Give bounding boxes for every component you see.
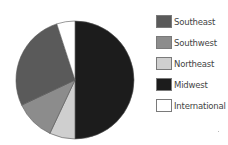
legend-label: Southwest — [174, 38, 217, 48]
legend-label: International — [174, 101, 226, 111]
legend-swatch-southwest — [156, 36, 172, 49]
legend-swatch-midwest — [156, 78, 172, 91]
pie-chart — [0, 0, 150, 145]
stray-dot — [218, 131, 219, 132]
legend-item-international: International — [156, 95, 226, 116]
legend-swatch-international — [156, 99, 172, 112]
legend-label: Midwest — [174, 80, 208, 90]
legend-swatch-northeast — [156, 57, 172, 70]
legend-item-northeast: Northeast — [156, 53, 226, 74]
legend-label: Southeast — [174, 17, 215, 27]
legend-item-midwest: Midwest — [156, 74, 226, 95]
legend-item-southeast: Southeast — [156, 11, 226, 32]
legend-item-southwest: Southwest — [156, 32, 226, 53]
pie-slice-midwest — [75, 21, 134, 139]
legend-swatch-southeast — [156, 15, 172, 28]
chart-legend: Southeast Southwest Northeast Midwest In… — [156, 11, 226, 116]
legend-label: Northeast — [174, 59, 214, 69]
